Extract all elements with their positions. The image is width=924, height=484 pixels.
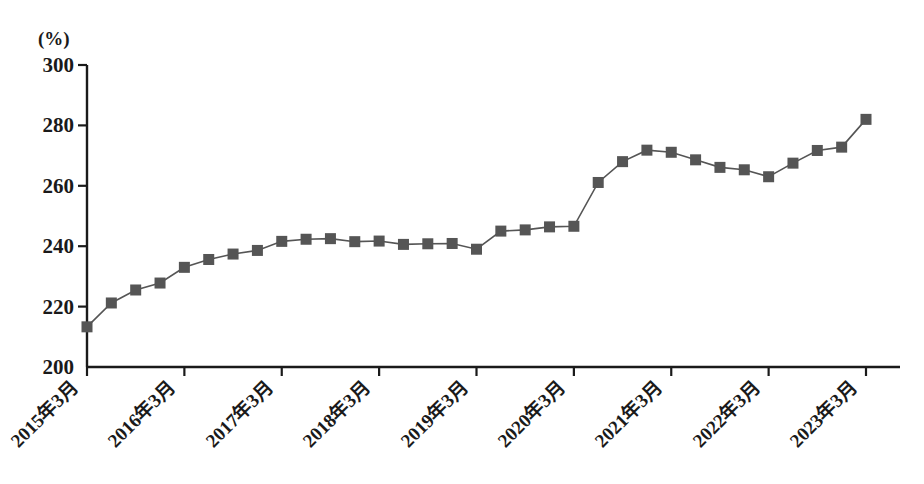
data-point-marker: [422, 238, 433, 249]
data-point-marker: [690, 154, 701, 165]
data-point-marker: [301, 234, 312, 245]
data-point-marker: [82, 321, 93, 332]
data-point-marker: [106, 297, 117, 308]
series-markers: [82, 114, 872, 332]
data-point-marker: [203, 254, 214, 265]
data-point-marker: [836, 142, 847, 153]
data-point-marker: [593, 177, 604, 188]
data-point-marker: [861, 114, 872, 125]
data-point-marker: [325, 233, 336, 244]
data-point-marker: [130, 284, 141, 295]
data-point-marker: [714, 162, 725, 173]
data-point-marker: [520, 224, 531, 235]
data-point-marker: [666, 147, 677, 158]
axis-lines: [87, 65, 900, 367]
data-point-marker: [447, 238, 458, 249]
series-line: [87, 119, 866, 326]
data-point-marker: [228, 249, 239, 260]
data-point-marker: [812, 145, 823, 156]
data-point-marker: [374, 236, 385, 247]
data-point-marker: [617, 156, 628, 167]
data-point-marker: [787, 158, 798, 169]
plot-area: [0, 0, 924, 484]
data-point-marker: [155, 278, 166, 289]
data-point-marker: [568, 221, 579, 232]
data-point-marker: [495, 226, 506, 237]
data-point-marker: [276, 236, 287, 247]
data-point-marker: [763, 171, 774, 182]
data-point-marker: [471, 244, 482, 255]
data-point-marker: [544, 221, 555, 232]
data-point-marker: [641, 145, 652, 156]
data-point-marker: [179, 262, 190, 273]
data-point-marker: [739, 164, 750, 175]
chart-container: (%) 200220240260280300 2015年3月2016年3月201…: [0, 0, 924, 484]
data-point-marker: [398, 239, 409, 250]
data-point-marker: [349, 236, 360, 247]
axis-ticks: [78, 65, 866, 376]
data-point-marker: [252, 245, 263, 256]
